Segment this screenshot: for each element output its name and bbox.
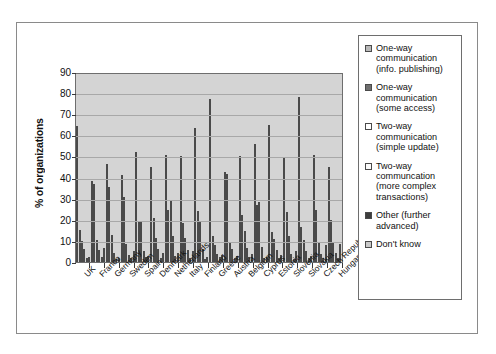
y-tick-label: 10 (49, 237, 71, 247)
x-axis-label-belgium: Belgium (239, 267, 254, 323)
legend-item: One-way communication (some access) (365, 82, 456, 113)
y-tick-mark (72, 200, 76, 201)
bar-group (91, 74, 106, 262)
x-axis-category-labels: UKFranceGermanySwedenSpainDenmarkNetherl… (75, 267, 343, 323)
y-tick-label: 70 (49, 110, 71, 120)
bar-group (283, 74, 298, 262)
chart-area: % of organizations 0102030405060708090 U… (35, 35, 353, 325)
legend-label: Two-way communcation (more complex trans… (376, 161, 456, 203)
legend-label: One-way communication (some access) (376, 82, 456, 113)
y-tick-mark (72, 115, 76, 116)
x-axis-label-czech-republic: Czech Republic (313, 267, 328, 323)
bar-group (298, 74, 313, 262)
legend-item: Two-way communication (simple update) (365, 121, 456, 152)
bar-group (313, 74, 328, 262)
x-axis-label-austria: Austria (224, 267, 239, 323)
x-axis-label-france: France (90, 267, 105, 323)
y-tick-label: 30 (49, 195, 71, 205)
x-axis-label-slovakia: Slovakia (298, 267, 313, 323)
legend-label: Other (further advanced) (376, 210, 456, 231)
y-tick-label: 0 (49, 258, 71, 268)
gridline (76, 242, 342, 243)
x-axis-label-netherlands: Netherlands (164, 267, 179, 323)
y-tick-mark (72, 242, 76, 243)
bar-group (327, 74, 342, 262)
x-axis-label-cyprus: Cyprus (254, 267, 269, 323)
bar-group (179, 74, 194, 262)
bar-group (253, 74, 268, 262)
x-axis-label-denmark: Denmark (149, 267, 164, 323)
y-tick-mark (72, 221, 76, 222)
x-axis-label-finland: Finland (194, 267, 209, 323)
gridline (76, 200, 342, 201)
figure-frame: % of organizations 0102030405060708090 U… (16, 22, 478, 334)
legend-swatch-icon (365, 212, 372, 219)
y-tick-mark (72, 94, 76, 95)
bar-group (120, 74, 135, 262)
bar-group (268, 74, 283, 262)
legend-swatch-icon (365, 84, 372, 91)
y-tick-mark (72, 136, 76, 137)
gridline (76, 179, 342, 180)
legend-swatch-icon (365, 45, 372, 52)
x-axis-label-italy: Italy (179, 267, 194, 323)
y-tick-mark (72, 179, 76, 180)
legend-item: Other (further advanced) (365, 210, 456, 231)
legend-label: Don't know (376, 239, 421, 249)
plot-region (75, 73, 343, 263)
bar-group (239, 74, 254, 262)
gridline (76, 94, 342, 95)
y-tick-label: 20 (49, 216, 71, 226)
y-tick-label: 90 (49, 68, 71, 78)
gridline (76, 115, 342, 116)
bar-group (165, 74, 180, 262)
x-axis-label-sweden: Sweden (120, 267, 135, 323)
x-axis-label-spain: Spain (135, 267, 150, 323)
x-axis-label-uk: UK (75, 267, 90, 323)
bar-group (209, 74, 224, 262)
x-axis-label-estonia: Estonia (269, 267, 284, 323)
gridline (76, 221, 342, 222)
legend-item: Don't know (365, 239, 456, 249)
bar-group (194, 74, 209, 262)
legend-label: Two-way communication (simple update) (376, 121, 456, 152)
bar-group (76, 74, 91, 262)
y-tick-label: 40 (49, 174, 71, 184)
x-axis-label-hungary: Hungary (328, 267, 343, 323)
y-tick-mark (72, 73, 76, 74)
gridline (76, 136, 342, 137)
x-axis-label-slovenia: Slovenia (283, 267, 298, 323)
y-tick-label: 80 (49, 89, 71, 99)
bar-group (135, 74, 150, 262)
gridline (76, 157, 342, 158)
legend-swatch-icon (365, 123, 372, 130)
legend-item: One-way communication (info. publishing) (365, 43, 456, 74)
y-axis-title: % of organizations (31, 83, 47, 243)
y-tick-label: 60 (49, 131, 71, 141)
legend-swatch-icon (365, 241, 372, 248)
x-axis-label-greece: Greece (209, 267, 224, 323)
x-axis-label-germany: Germany (105, 267, 120, 323)
chart-legend: One-way communication (info. publishing)… (358, 35, 462, 300)
legend-item: Two-way communcation (more complex trans… (365, 161, 456, 203)
bar-group (224, 74, 239, 262)
bar-groups (76, 74, 342, 262)
legend-swatch-icon (365, 163, 372, 170)
bar-group (106, 74, 121, 262)
y-tick-label: 50 (49, 152, 71, 162)
bar-group (150, 74, 165, 262)
y-tick-mark (72, 157, 76, 158)
y-axis-tick-labels: 0102030405060708090 (49, 73, 71, 263)
legend-label: One-way communication (info. publishing) (376, 43, 456, 74)
